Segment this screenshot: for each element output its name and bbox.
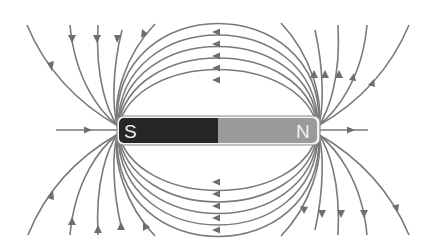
north-pole-label: N [296,121,310,142]
north-lower-arrows [300,204,399,218]
upper-loop-arrows [212,29,220,84]
south-upper-open-lines [27,24,155,128]
south-lower-open-lines [28,132,155,236]
north-upper-arrows [310,70,375,87]
north-upper-open-lines [281,23,409,128]
north-lower-open-lines [281,132,409,236]
south-pole-label: S [124,121,137,142]
field-lines-canvas: S N [0,0,432,245]
upper-loops [117,24,319,129]
bar-magnet: S N [117,116,320,145]
magnet-field-diagram: S N [0,0,432,245]
